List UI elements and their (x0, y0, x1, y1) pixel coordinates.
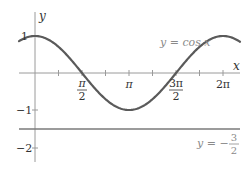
x-axis-label: x (233, 59, 240, 73)
ytick-label-neg1: −1 (16, 104, 32, 117)
ytick-label-neg2: −2 (16, 142, 32, 155)
xtick-label-pi: π (124, 78, 133, 91)
cosine-chart: y x 1 −1 −2 π 2 π 3π 2 2π y = cos x y = … (0, 0, 247, 172)
svg-text:2: 2 (173, 90, 180, 103)
xtick-label-2pi: 2π (216, 78, 230, 91)
svg-text:2: 2 (79, 90, 86, 103)
xtick-label-3pi-half: 3π 2 (169, 77, 183, 103)
line-label: y = − 3 2 (196, 132, 239, 156)
xtick-label-pi-half: π 2 (77, 77, 87, 103)
svg-text:π: π (77, 77, 86, 90)
y-axis-label: y (38, 9, 46, 23)
svg-text:y = −: y = − (196, 137, 229, 150)
curve-label: y = cos x (159, 36, 211, 49)
svg-text:3: 3 (231, 132, 237, 143)
svg-text:2: 2 (231, 145, 237, 156)
svg-text:3π: 3π (169, 77, 183, 90)
ytick-label-1: 1 (21, 30, 28, 43)
